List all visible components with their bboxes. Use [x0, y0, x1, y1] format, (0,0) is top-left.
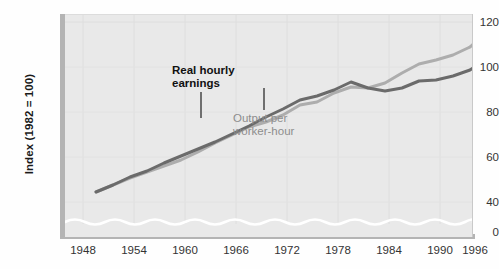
x-tick-label-1978: 1978: [315, 244, 361, 256]
x-tick-label-1960: 1960: [162, 244, 208, 256]
x-tick-label-1948: 1948: [60, 244, 106, 256]
y-axis-title: Index (1982 = 100): [23, 34, 35, 214]
x-tick-label-1984: 1984: [366, 244, 412, 256]
x-tick-label-1966: 1966: [213, 244, 259, 256]
leader-line-output-per-worker-hour: [263, 88, 265, 110]
leader-line-real-hourly-earnings: [200, 92, 202, 118]
plot-right-border: [472, 14, 473, 237]
x-tick-label-1996: 1996: [452, 244, 498, 256]
annotation-output-per-worker-hour: Output per worker-hour: [233, 112, 294, 137]
x-tick-label-1972: 1972: [264, 244, 310, 256]
axis-break-wave: [65, 220, 473, 225]
annotation-real-hourly-earnings: Real hourly earnings: [172, 64, 235, 89]
chart-figure: Index (1982 = 100) 120 100 80 60 40 0: [0, 0, 499, 269]
plot-top-border: [65, 14, 473, 15]
x-tick-label-1954: 1954: [111, 244, 157, 256]
